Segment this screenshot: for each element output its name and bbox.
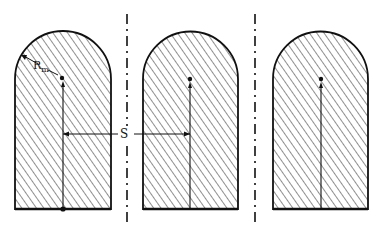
diagram-canvas: Rm S — [0, 0, 380, 233]
rod-2 — [143, 32, 238, 210]
rod-1-base-dot — [60, 206, 65, 211]
spacing-label: S — [120, 127, 128, 141]
rod-3-center-dot — [319, 77, 323, 81]
rod-2-center-dot — [188, 77, 192, 81]
rod-1-center-dot — [60, 76, 64, 80]
rod-1: Rm — [15, 31, 111, 212]
rod-3 — [273, 32, 368, 210]
